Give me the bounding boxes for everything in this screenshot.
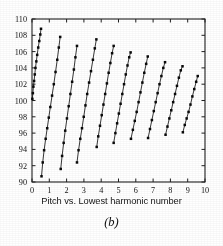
data-point-marker [40,175,43,178]
x-tick-label: 10 [201,186,209,195]
figure-subcaption: (b) [0,215,223,230]
data-point-marker [164,133,167,136]
data-point-marker [79,138,82,141]
data-point-marker [90,70,93,73]
data-point-marker [31,98,33,101]
data-series [95,45,114,149]
figure-panel: 9092949698100102104106108110012345678910… [0,0,223,246]
data-point-marker [76,161,79,164]
data-point-marker [67,105,70,108]
data-point-marker [191,95,194,98]
y-tick-label: 104 [15,64,27,73]
data-point-marker [95,38,98,41]
series-line [77,39,96,162]
data-point-marker [56,59,59,62]
data-point-marker [195,81,198,84]
data-series [112,51,131,144]
y-tick-label: 110 [15,15,27,24]
x-tick-label: 5 [116,186,120,195]
data-point-marker [104,93,107,96]
y-tick-label: 92 [19,162,27,171]
data-point-marker [49,106,52,109]
y-tick-label: 100 [15,97,27,106]
data-point-marker [34,73,37,76]
data-series [147,61,166,139]
series-line [148,62,165,138]
x-tick-label: 0 [30,186,34,195]
data-point-marker [129,51,132,54]
data-point-marker [172,101,175,104]
data-point-marker [181,65,184,68]
y-tick-label: 106 [15,48,27,57]
data-point-marker [106,82,109,85]
data-point-marker [39,33,42,36]
data-point-marker [46,127,49,129]
data-point-marker [112,142,115,145]
data-point-marker [92,59,95,62]
data-point-marker [71,81,74,84]
data-point-marker [54,71,57,74]
data-series [31,28,42,101]
data-point-marker [162,67,165,70]
data-point-marker [36,54,39,57]
data-point-marker [146,55,149,58]
data-point-marker [48,116,51,119]
data-point-marker [130,138,133,141]
data-series [40,36,61,178]
data-point-marker [134,120,137,123]
data-point-marker [82,116,85,119]
data-point-marker [147,137,150,140]
data-point-marker [128,56,131,59]
data-point-marker [95,146,98,149]
data-point-marker [154,101,157,104]
data-point-marker [44,138,47,141]
data-point-marker [164,61,167,64]
data-point-marker [107,72,110,75]
data-point-marker [185,117,188,120]
x-tick-label: 6 [134,186,138,195]
data-point-marker [114,132,117,135]
data-point-marker [102,103,105,106]
plot-area: 9092949698100102104106108110012345678910 [0,0,223,205]
data-point-marker [41,161,44,164]
data-point-marker [40,28,43,31]
data-point-marker [189,103,192,106]
data-point-marker [184,124,187,127]
data-series [182,75,199,134]
x-tick-label: 3 [82,186,86,195]
data-point-marker [119,103,122,106]
x-tick-label: 7 [151,186,155,195]
data-point-marker [64,129,67,132]
data-point-marker [156,92,159,95]
data-point-marker [149,128,152,131]
data-point-marker [121,93,124,96]
data-point-marker [126,64,129,67]
data-point-marker [53,83,56,86]
data-point-marker [61,155,64,158]
series-line [97,46,114,147]
data-point-marker [94,47,97,50]
series-line [131,56,148,138]
data-point-marker [37,46,40,49]
y-tick-label: 98 [19,113,27,122]
data-point-marker [109,62,112,64]
data-point-marker [123,83,126,86]
data-point-marker [76,45,79,48]
y-tick-label: 96 [19,129,27,138]
data-point-marker [141,81,144,84]
x-tick-label: 9 [186,186,190,195]
data-point-marker [178,76,181,79]
data-point-marker [135,111,138,114]
data-point-marker [132,129,135,132]
data-point-marker [139,91,142,94]
data-point-marker [116,122,119,125]
data-point-marker [34,67,37,70]
data-point-marker [112,45,115,48]
data-point-marker [151,119,154,122]
data-point-marker [58,46,61,49]
data-series [164,65,183,136]
data-point-marker [111,52,114,55]
data-point-marker [32,85,35,88]
data-point-marker [160,75,163,78]
data-point-marker [81,127,84,129]
